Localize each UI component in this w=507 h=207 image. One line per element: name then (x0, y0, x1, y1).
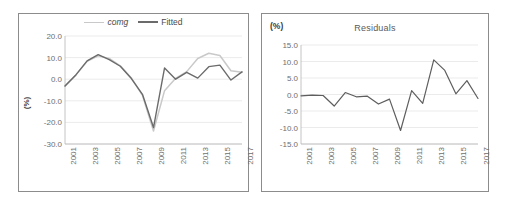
left-chart-svg (19, 14, 248, 191)
series-line-fitted (65, 55, 242, 128)
left-plot-area: comg Fitted (%) 20.010.00.0-10.0-20.0-30… (19, 14, 248, 191)
right-chart-panel: (%) Residuals 15.010.05.00.0-5.0-10.0-15… (261, 13, 489, 192)
left-chart-panel: comg Fitted (%) 20.010.00.0-10.0-20.0-30… (18, 13, 249, 192)
right-chart-svg (262, 14, 488, 191)
series-line-comg (65, 53, 242, 131)
right-plot-area: (%) Residuals 15.010.05.00.0-5.0-10.0-15… (262, 14, 488, 191)
series-line-residuals (301, 60, 478, 131)
chart-figure: comg Fitted (%) 20.010.00.0-10.0-20.0-30… (0, 0, 507, 207)
